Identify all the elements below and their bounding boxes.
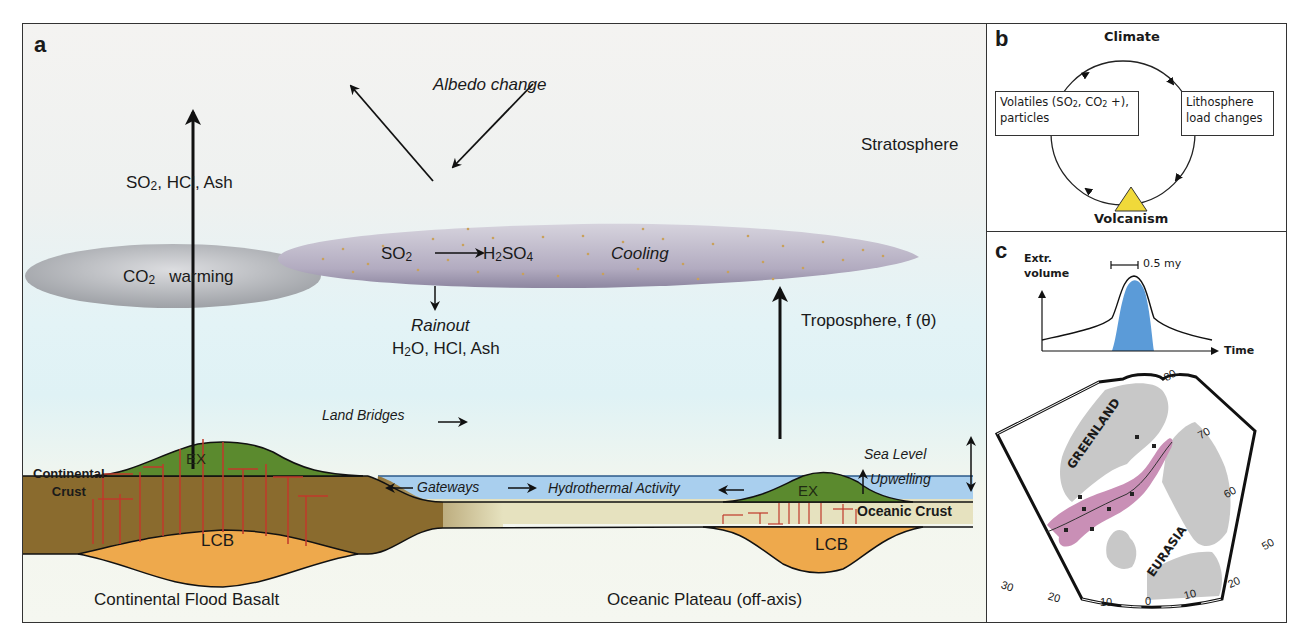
stratosphere-label: Stratosphere xyxy=(861,136,958,153)
hydrothermal-activity-label: Hydrothermal Activity xyxy=(548,481,680,495)
panel-letter-a: a xyxy=(34,34,46,56)
panel-b-feedback-cycle: b Climate Volatiles (SO2, CO2 +), partic… xyxy=(986,23,1287,232)
lcb-right-label: LCB xyxy=(815,536,848,553)
oceanic-plateau-caption: Oceanic Plateau (off-axis) xyxy=(607,591,802,608)
ex-left-label: EX xyxy=(186,451,206,466)
time-axis-label: Time xyxy=(1224,345,1254,356)
panel-a-volcanism-climate-diagram: a Albedo change Stratosphere SO2, HCl, A… xyxy=(22,23,987,623)
albedo-in-arrow xyxy=(453,84,533,167)
rainout-label: Rainout xyxy=(411,317,470,334)
ex-right-label: EX xyxy=(798,483,818,498)
sea-level-label: Sea Level xyxy=(864,447,926,461)
rainout-species-label: H2O, HCl, Ash xyxy=(392,340,500,359)
panel-c-artwork xyxy=(987,232,1287,623)
climate-label: Climate xyxy=(1104,30,1160,43)
oceanic-crust-label: Oceanic Crust xyxy=(857,504,952,518)
ex-left xyxy=(93,442,363,476)
scale-0-5-my-label: 0.5 my xyxy=(1143,258,1181,269)
lithosphere-box: Lithosphere load changes xyxy=(1181,91,1274,136)
cooling-label: Cooling xyxy=(611,245,669,262)
volatiles-box: Volatiles (SO2, CO2 +), particles xyxy=(995,91,1139,136)
north-atlantic-map xyxy=(997,375,1255,608)
panel-letter-c: c xyxy=(995,240,1007,262)
troposphere-label: Troposphere, f (θ) xyxy=(801,312,936,329)
extr-volume-axis-label: Extr.volume xyxy=(1024,252,1069,282)
co2-warming-label: CO2 warming xyxy=(123,268,234,287)
stratospheric-cloud xyxy=(278,224,919,288)
continental-crust-label: ContinentalCrust xyxy=(33,465,105,500)
volcano-triangle-icon xyxy=(1115,187,1147,211)
lcb-right xyxy=(703,527,923,573)
continental-flood-basalt-caption: Continental Flood Basalt xyxy=(94,591,279,608)
land-bridges-label: Land Bridges xyxy=(322,408,405,422)
h2so4-label: H2SO4 xyxy=(483,245,533,264)
lcb-left-label: LCB xyxy=(201,532,234,549)
so2-label: SO2 xyxy=(381,245,412,264)
upwelling-label: Upwelling xyxy=(870,472,931,486)
volcanism-label: Volcanism xyxy=(1094,212,1168,225)
albedo-out-arrow xyxy=(351,86,433,181)
gateways-label: Gateways xyxy=(417,480,479,494)
lon-label-0: 0 xyxy=(1145,596,1151,607)
lon-label-10w: 10 xyxy=(1100,597,1112,608)
albedo-change-label: Albedo change xyxy=(433,76,546,93)
so2-hcl-ash-label: SO2, HCl, Ash xyxy=(126,174,233,193)
panel-letter-b: b xyxy=(995,28,1008,50)
panel-c-eruption-timing-and-map: c Extr.volume 0.5 my Time GREENLAND EURA… xyxy=(986,231,1287,623)
